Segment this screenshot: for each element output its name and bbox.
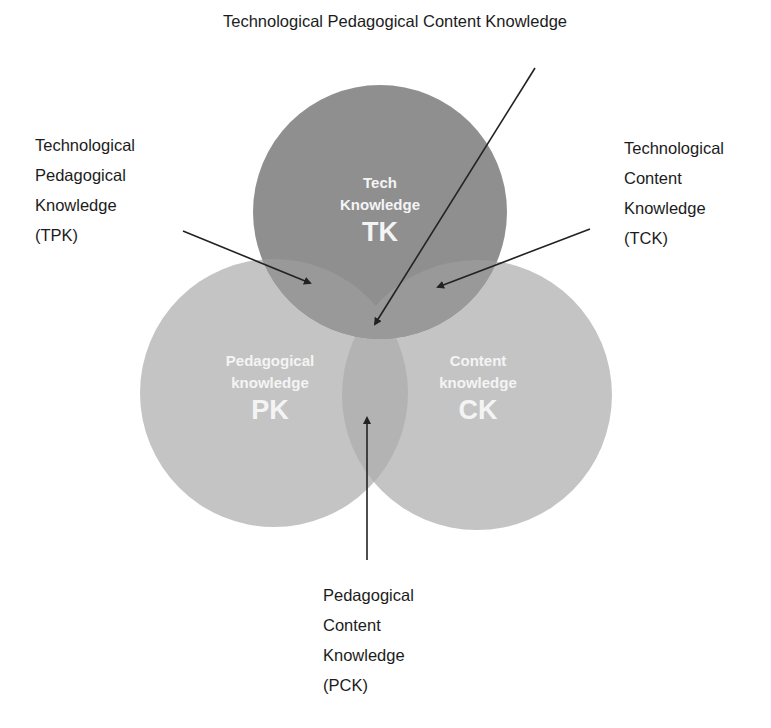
pck-line: Content [323,610,414,640]
pck-line: Pedagogical [323,580,414,610]
pk-label: Pedagogical knowledge PK [210,350,330,426]
tck-label: Technological Content Knowledge (TCK) [624,133,724,253]
pk-line2: knowledge [210,372,330,394]
tpck-title: Technological Pedagogical Content Knowle… [223,12,567,31]
pk-abbr: PK [210,394,330,426]
tk-line1: Tech [330,172,430,194]
tpk-label: Technological Pedagogical Knowledge (TPK… [35,130,135,250]
tk-abbr: TK [330,216,430,248]
ck-label: Content knowledge CK [418,350,538,426]
pck-label: Pedagogical Content Knowledge (PCK) [323,580,414,700]
tpk-line: Technological [35,130,135,160]
ck-line2: knowledge [418,372,538,394]
tck-line: Knowledge [624,193,724,223]
ck-line1: Content [418,350,538,372]
ck-abbr: CK [418,394,538,426]
tpk-line: Knowledge [35,190,135,220]
tpk-line: (TPK) [35,220,135,250]
tk-label: Tech Knowledge TK [330,172,430,248]
tpk-line: Pedagogical [35,160,135,190]
pk-line1: Pedagogical [210,350,330,372]
tk-line2: Knowledge [330,194,430,216]
tck-line: Technological [624,133,724,163]
pck-line: Knowledge [323,640,414,670]
tck-line: (TCK) [624,223,724,253]
tck-line: Content [624,163,724,193]
pck-line: (PCK) [323,670,414,700]
